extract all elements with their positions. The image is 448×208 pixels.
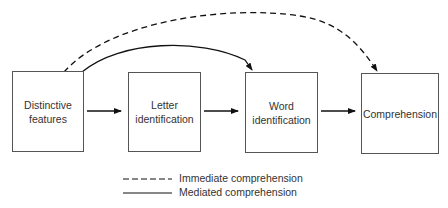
curve-mediated-features-to-word — [82, 45, 252, 72]
node-comprehension: Comprehension — [361, 73, 439, 154]
node-label: Distinctive features — [24, 98, 72, 126]
curve-immediate-features-to-comprehension — [64, 13, 377, 72]
node-label: Letter identification — [135, 98, 193, 126]
legend-immediate-label: Immediate comprehension — [179, 172, 303, 184]
node-letter-identification: Letter identification — [128, 72, 201, 152]
node-label: Word identification — [252, 99, 310, 127]
node-distinctive-features: Distinctive features — [12, 71, 84, 152]
node-label: Comprehension — [363, 107, 437, 121]
legend-mediated-label: Mediated comprehension — [179, 186, 297, 198]
node-word-identification: Word identification — [245, 72, 318, 153]
